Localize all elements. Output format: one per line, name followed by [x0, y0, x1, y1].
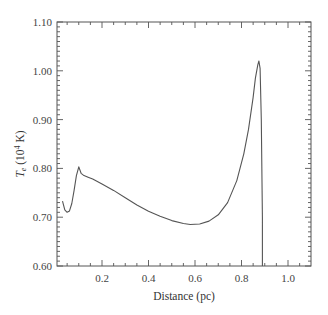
x-axis-label: Distance (pc) [153, 290, 215, 303]
te-curve [63, 61, 263, 266]
y-tick-label: 0.60 [33, 260, 53, 272]
y-label-unit-pre: (10 [14, 149, 27, 167]
y-axis-label: Te (104 K) [13, 130, 28, 177]
major-ticks [57, 22, 311, 266]
x-tick-label: 0.4 [142, 272, 156, 284]
plot-frame [57, 22, 311, 266]
y-tick-label: 0.70 [33, 211, 53, 223]
y-tick-labels: 0.600.700.800.901.001.10 [33, 16, 53, 272]
chart: 0.20.40.60.81.0 0.600.700.800.901.001.10… [0, 0, 328, 315]
y-tick-label: 1.10 [33, 16, 53, 28]
y-tick-label: 1.00 [33, 65, 53, 77]
y-tick-label: 0.80 [33, 162, 53, 174]
y-tick-label: 0.90 [33, 114, 53, 126]
x-tick-label: 0.6 [188, 272, 202, 284]
x-tick-labels: 0.20.40.60.81.0 [95, 272, 295, 284]
x-tick-label: 1.0 [281, 272, 295, 284]
x-tick-label: 0.2 [95, 272, 109, 284]
minor-ticks [57, 22, 311, 266]
x-tick-label: 0.8 [235, 272, 249, 284]
y-label-unit-post: K) [14, 130, 27, 145]
